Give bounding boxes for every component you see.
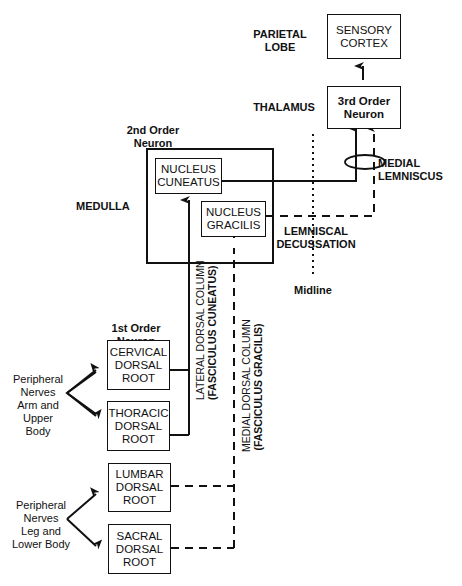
region-parietal-lobe: PARIETAL LOBE: [248, 28, 312, 54]
lateral-column-name: LATERAL DORSAL COLUMN: [194, 270, 206, 400]
label-lemniscal-decussation: LEMNISCAL DECUSSATION: [276, 225, 356, 251]
thoracic-dorsal-root-box: THORACIC DORSAL ROOT: [107, 401, 170, 451]
cervical-dorsal-root-box: CERVICAL DORSAL ROOT: [107, 340, 170, 390]
third-order-neuron-box: 3rd Order Neuron: [327, 86, 401, 129]
label-midline: Midline: [290, 284, 336, 297]
region-medulla: MEDULLA: [76, 200, 146, 213]
label-lateral-dorsal-column: LATERAL DORSAL COLUMN (FASCICULUS CUNEAT…: [194, 270, 218, 400]
label-second-order-neuron: 2nd Order Neuron: [118, 124, 188, 150]
lumbar-dorsal-root-box: LUMBAR DORSAL ROOT: [108, 463, 171, 512]
label-medial-lemniscus: MEDIAL LEMNISCUS: [378, 157, 458, 183]
lateral-column-sub: (FASCICULUS CUNEATUS): [206, 270, 218, 400]
sacral-dorsal-root-box: SACRAL DORSAL ROOT: [108, 524, 171, 574]
sensory-cortex-box: SENSORY CORTEX: [327, 14, 401, 59]
nucleus-gracilis-box: NUCLEUS GRACILIS: [201, 201, 266, 237]
label-peripheral-upper: Peripheral Nerves Arm and Upper Body: [10, 373, 66, 438]
label-medial-dorsal-column: MEDIAL DORSAL COLUMN (FASCICULUS GRACILI…: [240, 322, 264, 452]
nucleus-cuneatus-box: NUCLEUS CUNEATUS: [155, 158, 222, 194]
region-thalamus: THALAMUS: [250, 101, 318, 114]
medial-column-name: MEDIAL DORSAL COLUMN: [240, 322, 252, 452]
label-peripheral-lower: Peripheral Nerves Leg and Lower Body: [10, 499, 72, 551]
medial-column-sub: (FASCICULUS GRACILIS): [252, 322, 264, 452]
